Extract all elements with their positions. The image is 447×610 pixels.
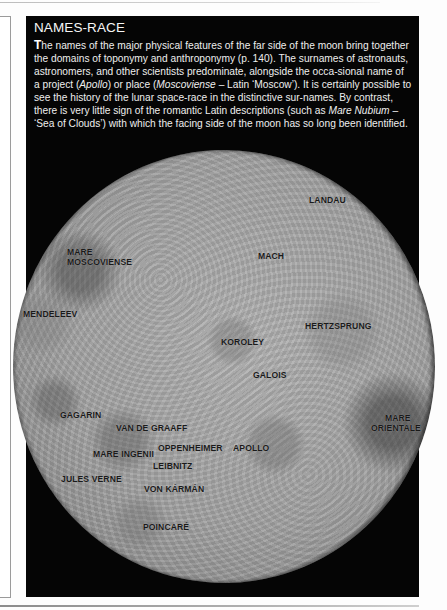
moon-feature-label: LEIBNITZ [153, 461, 192, 471]
bottom-rule [0, 605, 419, 607]
body-italic-moscoviense: Moscoviense [156, 79, 215, 90]
moon-feature-label: GAGARIN [60, 410, 101, 420]
moon-feature-label: HERTZSPRUNG [305, 321, 372, 331]
body-part-2: ) or place ( [108, 79, 157, 90]
moon-feature-label: ORIENTALE [371, 423, 421, 433]
moon-feature-label: POINCARÉ [143, 522, 189, 532]
moon-feature-label: MARE [385, 413, 411, 423]
top-rule [0, 2, 380, 3]
body-italic-mare-nubium: Mare Nubium [328, 105, 389, 116]
moon-feature-label: MENDELEEV [23, 309, 77, 319]
body-italic-apollo: Apollo [79, 79, 107, 90]
moon-feature-label: JULES VERNE [61, 474, 122, 484]
moon-feature-label: LANDAU [309, 195, 346, 205]
moon-feature-label: OPPENHEIMER [158, 443, 223, 453]
moon-image [13, 150, 435, 583]
sidebar-body: The names of the major physical features… [34, 39, 412, 130]
sidebar-title: NAMES-RACE [34, 20, 412, 35]
moon-feature-label: MACH [258, 251, 284, 261]
moon-feature-label: APOLLO [233, 443, 269, 453]
moon-feature-label: MARE [67, 247, 93, 257]
sidebar-text: NAMES-RACE The names of the major physic… [34, 20, 412, 130]
moon-feature-label: MARE INGENII [93, 449, 154, 459]
moon-feature-label: VON KÁRMÁN [144, 484, 204, 494]
moon-feature-label: VAN DE GRAAFF [116, 423, 187, 433]
moon-feature-label: KOROLEY [221, 337, 264, 347]
page: NAMES-RACE The names of the major physic… [0, 0, 447, 610]
left-panel-edge [0, 16, 11, 598]
moon-feature-label: MOSCOVIENSE [67, 257, 132, 267]
moon-feature-label: GALOIS [253, 370, 287, 380]
